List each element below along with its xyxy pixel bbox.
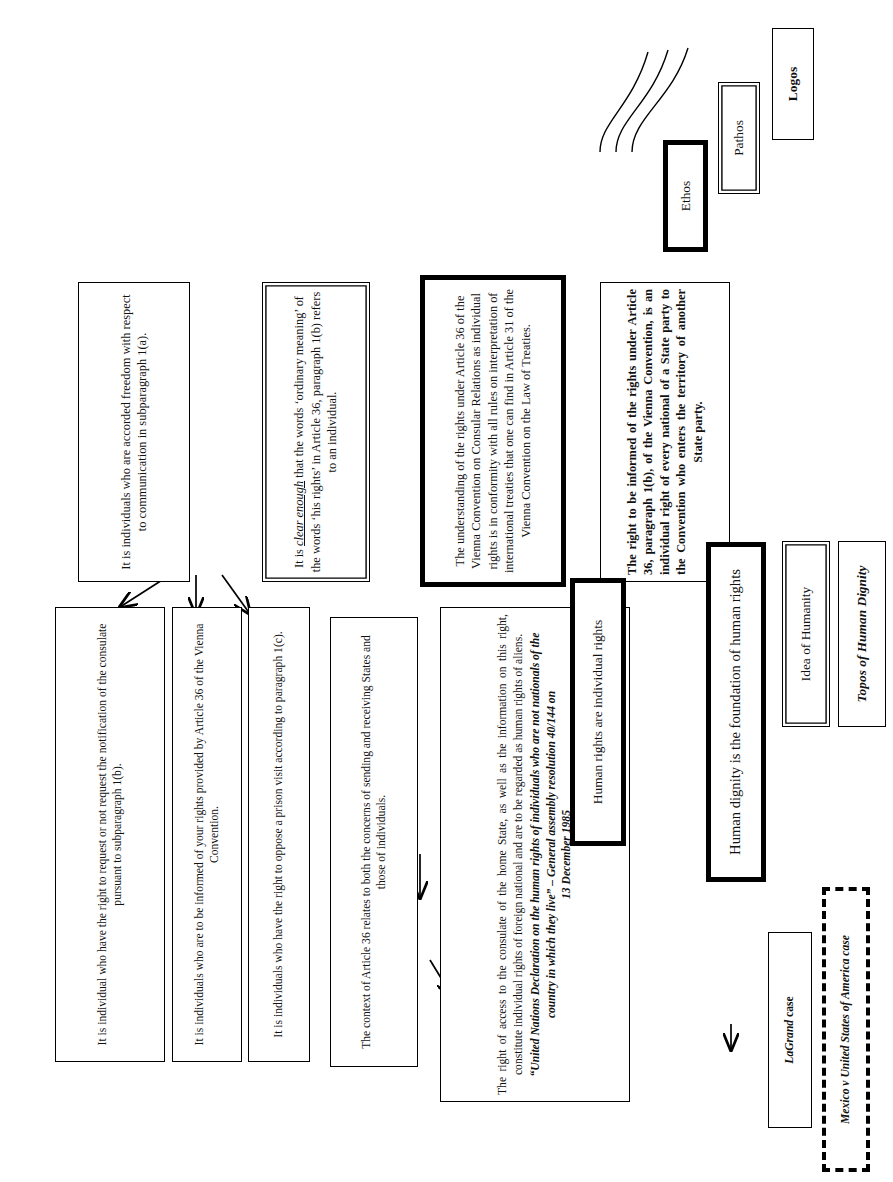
diagram-canvas: It is individual who have the right to r…	[0, 0, 893, 1182]
node-claim-1a[interactable]: It is individuals who are accorded freed…	[78, 282, 190, 582]
node-topos-of-human-dignity[interactable]: Topos of Human Dignity	[838, 541, 886, 727]
legend-mode-ethos[interactable]: Ethos	[663, 140, 708, 252]
node-claim-1c[interactable]: It is individuals who have the right to …	[248, 607, 310, 1062]
node-ordinary-meaning[interactable]: It is clear enough that the words ‘ordin…	[262, 282, 370, 582]
legend-lagrand-italic: LaGrand	[783, 1020, 796, 1064]
legend-lagrand-plain: case	[783, 996, 796, 1020]
legend-case-lagrand[interactable]: LaGrand case	[768, 932, 812, 1128]
node-claim-1b[interactable]: It is individual who have the right to r…	[55, 607, 165, 1062]
node-context-article36[interactable]: The context of Article 36 relates to bot…	[330, 617, 418, 1067]
node-human-rights-are-individual-rights[interactable]: Human rights are individual rights	[570, 578, 626, 846]
legend-case-avena[interactable]: Mexico v United States of America case	[822, 887, 870, 1172]
node-claim-informed[interactable]: It is individuals who are to be informed…	[172, 607, 242, 1062]
ordinary-meaning-pre: It is	[292, 546, 306, 568]
node-idea-of-humanity[interactable]: Idea of Humanity	[782, 541, 830, 727]
node-right-to-be-informed[interactable]: The right to be informed of the rights u…	[600, 282, 730, 582]
node-understanding-rights[interactable]: The understanding of the rights under Ar…	[420, 275, 566, 587]
ordinary-meaning-emph: clear enough	[292, 481, 306, 546]
legend-mode-logos[interactable]: Logos	[772, 28, 814, 140]
node-human-dignity-foundation[interactable]: Human dignity is the foundation of human…	[706, 542, 766, 882]
legend-mode-pathos[interactable]: Pathos	[718, 82, 760, 194]
